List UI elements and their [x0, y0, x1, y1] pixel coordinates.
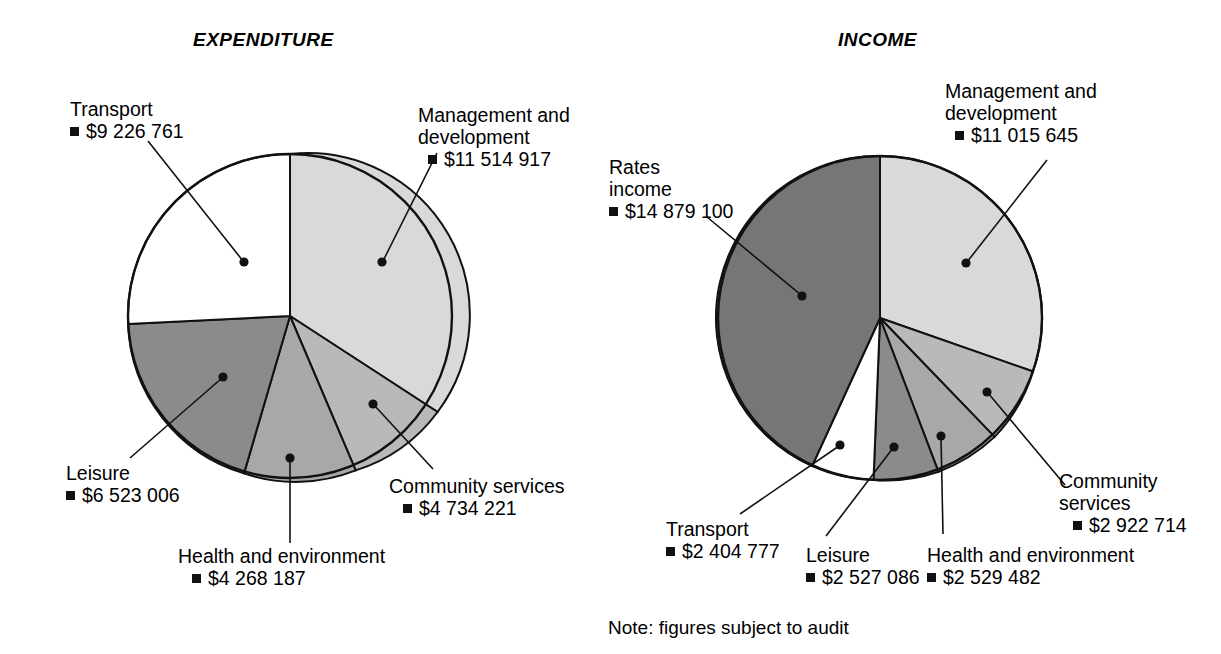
- label-amount: $11 015 645: [971, 124, 1078, 146]
- label-amount-row: $14 879 100: [609, 200, 733, 222]
- label-income-management-and-development: Management and development $11 015 645: [945, 80, 1097, 146]
- label-amount-row: $2 529 482: [927, 566, 1134, 588]
- legend-swatch-icon: [666, 547, 675, 556]
- label-amount: $2 529 482: [943, 566, 1041, 588]
- label-amount: $2 404 777: [682, 540, 780, 562]
- income-pie: [707, 156, 1065, 536]
- label-income-transport: Transport $2 404 777: [666, 518, 780, 562]
- figure-canvas: EXPENDITURE INCOME: [0, 0, 1221, 654]
- legend-swatch-icon: [927, 573, 936, 582]
- label-text-line1: Community: [1059, 470, 1187, 492]
- leader-dot-rates-income: [797, 291, 806, 300]
- leader-dot-management: [961, 258, 970, 267]
- label-text-line1: Management and: [945, 80, 1097, 102]
- label-income-rates-income: Rates income $14 879 100: [609, 156, 733, 222]
- legend-swatch-icon: [609, 207, 618, 216]
- figure-note: Note: figures subject to audit: [608, 617, 849, 639]
- leader-dot-community: [982, 387, 991, 396]
- label-text: Health and environment: [927, 544, 1134, 566]
- label-income-leisure: Leisure $2 527 086: [806, 544, 920, 588]
- label-text: Transport: [666, 518, 780, 540]
- label-text-line1: Rates: [609, 156, 733, 178]
- label-income-health-and-environment: Health and environment $2 529 482: [927, 544, 1134, 588]
- label-text-line2: services: [1059, 492, 1187, 514]
- leader-dot-transport: [835, 440, 844, 449]
- label-amount-row: $2 527 086: [806, 566, 920, 588]
- label-amount: $2 527 086: [822, 566, 920, 588]
- label-income-community-services: Community services $2 922 714: [1059, 470, 1187, 536]
- label-amount-row: $11 015 645: [945, 124, 1097, 146]
- label-text-line2: development: [945, 102, 1097, 124]
- label-text-line2: income: [609, 178, 733, 200]
- label-amount: $14 879 100: [625, 200, 733, 222]
- leader-dot-health: [936, 431, 945, 440]
- label-amount-row: $2 404 777: [666, 540, 780, 562]
- leader-dot-leisure: [889, 442, 898, 451]
- legend-swatch-icon: [806, 573, 815, 582]
- label-amount: $2 922 714: [1089, 514, 1187, 536]
- label-text: Leisure: [806, 544, 920, 566]
- legend-swatch-icon: [1073, 521, 1082, 530]
- label-amount-row: $2 922 714: [1059, 514, 1187, 536]
- legend-swatch-icon: [955, 131, 964, 140]
